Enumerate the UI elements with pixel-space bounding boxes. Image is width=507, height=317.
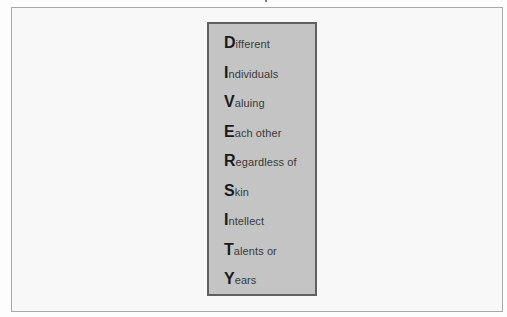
acrostic-initial: S — [224, 182, 235, 199]
acrostic-initial: D — [224, 34, 236, 51]
acrostic-rest: egardless of — [236, 156, 297, 168]
document-page: Different Individuals Valuing Each other… — [0, 0, 507, 317]
acrostic-rest: aluing — [235, 97, 265, 109]
acrostic-initial: T — [224, 241, 234, 258]
diversity-acrostic-box: Different Individuals Valuing Each other… — [207, 22, 317, 296]
acrostic-line: Different — [224, 33, 315, 63]
acrostic-line: Valuing — [224, 92, 315, 122]
acrostic-initial: V — [224, 93, 235, 110]
acrostic-rest: ndividuals — [228, 68, 278, 80]
acrostic-rest: ifferent — [236, 38, 270, 50]
acrostic-line: Each other — [224, 122, 315, 152]
acrostic-line: Regardless of — [224, 151, 315, 181]
acrostic-rest: ntellect — [228, 215, 264, 227]
acrostic-initial: R — [224, 152, 236, 169]
cropped-mark — [265, 0, 267, 2]
acrostic-rest: ach other — [235, 127, 282, 139]
acrostic-line: Talents or — [224, 240, 315, 270]
acrostic-line: Years — [224, 269, 315, 299]
acrostic-initial: E — [224, 123, 235, 140]
acrostic-rest: kin — [235, 186, 249, 198]
acrostic-line: Skin — [224, 181, 315, 211]
acrostic-initial: Y — [224, 270, 235, 287]
acrostic-line: Individuals — [224, 63, 315, 93]
acrostic-rest: alents or — [234, 245, 277, 257]
acrostic-rest: ears — [235, 274, 257, 286]
acrostic-line: Intellect — [224, 210, 315, 240]
